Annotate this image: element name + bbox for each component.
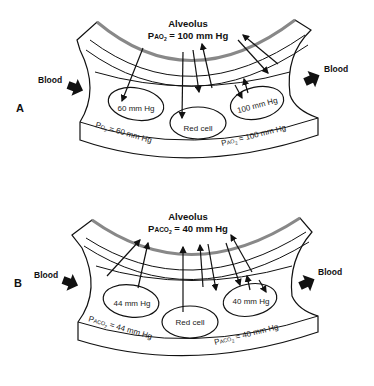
alveolus-title-a: Alveolus — [168, 18, 208, 29]
left-cell-value-a: 60 mm Hg — [118, 104, 155, 113]
alveolus-pressure-b: PACO2 = 40 mm Hg — [148, 223, 228, 235]
blood-out-label-b: Blood — [318, 267, 342, 277]
panel-a-label: A — [16, 102, 24, 114]
panel-b: B Alveolus PACO2 = 40 mm Hg Blood Blood … — [14, 211, 342, 356]
blood-out-arrow-b — [296, 271, 318, 294]
red-cell-label-a: Red cell — [184, 124, 213, 133]
blood-in-label-b: Blood — [34, 270, 58, 280]
right-cell-value-b: 40 mm Hg — [233, 297, 270, 306]
blood-in-arrow-a — [65, 77, 86, 99]
blood-out-arrow-a — [301, 67, 323, 90]
blood-out-label-a: Blood — [324, 64, 348, 74]
red-cell — [170, 107, 226, 139]
alveolus-title-b: Alveolus — [168, 211, 208, 222]
panel-a: A Alveolus PAO2 = 100 mm Hg Blood Blood … — [16, 18, 348, 158]
panel-b-label: B — [14, 277, 22, 289]
red-cell-label-b: Red cell — [176, 318, 205, 327]
gas-exchange-diagram: A Alveolus PAO2 = 100 mm Hg Blood Blood … — [0, 0, 374, 386]
alveolus-pressure-a: PAO2 = 100 mm Hg — [148, 30, 229, 42]
blood-in-label-a: Blood — [38, 75, 62, 85]
blood-in-arrow-b — [60, 272, 81, 294]
left-cell-value-b: 44 mm Hg — [114, 299, 151, 308]
